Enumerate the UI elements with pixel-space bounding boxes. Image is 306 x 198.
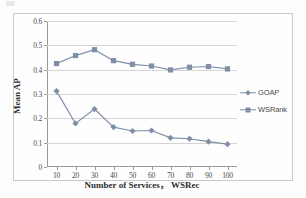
x-axis-title: Number of Services， WSRec bbox=[47, 178, 237, 191]
y-tick-mark bbox=[44, 167, 47, 168]
series-wsrank bbox=[54, 47, 230, 72]
data-point bbox=[225, 66, 230, 71]
data-point bbox=[53, 88, 59, 94]
data-point bbox=[73, 53, 78, 58]
data-point bbox=[148, 127, 154, 133]
data-point bbox=[224, 141, 230, 147]
x-tick-mark bbox=[133, 167, 134, 170]
data-point bbox=[167, 135, 173, 141]
x-tick-mark bbox=[76, 167, 77, 170]
plot-area: 0.60.50.40.30.20.10 10203040506070809010… bbox=[47, 21, 237, 167]
series-line bbox=[57, 50, 228, 70]
y-tick-label: 0.6 bbox=[33, 17, 42, 26]
x-tick-mark bbox=[171, 167, 172, 170]
data-point bbox=[168, 67, 173, 72]
data-point bbox=[187, 65, 192, 70]
x-tick-mark bbox=[152, 167, 153, 170]
series-layer bbox=[47, 21, 237, 167]
y-tick-label: 0.4 bbox=[33, 65, 42, 74]
data-point bbox=[149, 63, 154, 68]
y-tick-label: 0.3 bbox=[33, 90, 42, 99]
data-point bbox=[129, 128, 135, 134]
y-tick-label: 0.5 bbox=[33, 41, 42, 50]
legend-square-marker-icon bbox=[240, 105, 256, 115]
data-point bbox=[54, 61, 59, 66]
chart-legend: GOAPWSRank bbox=[240, 86, 298, 120]
data-point bbox=[111, 58, 116, 63]
x-tick-mark bbox=[95, 167, 96, 170]
x-tick-mark bbox=[190, 167, 191, 170]
series-line bbox=[57, 91, 228, 144]
y-tick-label: 0.2 bbox=[33, 114, 42, 123]
data-point bbox=[92, 47, 97, 52]
x-tick-mark bbox=[209, 167, 210, 170]
data-point bbox=[186, 136, 192, 142]
legend-diamond-marker-icon bbox=[240, 88, 256, 98]
y-tick-label: 0 bbox=[38, 163, 42, 172]
data-point bbox=[206, 64, 211, 69]
y-tick-label: 0.1 bbox=[33, 138, 42, 147]
legend-label: GOAP bbox=[258, 88, 279, 97]
legend-item-goap[interactable]: GOAP bbox=[240, 86, 298, 99]
legend-label: WSRank bbox=[258, 105, 287, 114]
chart-figure: 0.60.50.40.30.20.10 10203040506070809010… bbox=[0, 0, 306, 198]
y-axis-title: Mean AP bbox=[12, 78, 22, 114]
x-tick-mark bbox=[228, 167, 229, 170]
series-goap bbox=[53, 88, 230, 147]
data-point bbox=[130, 62, 135, 67]
scan-artifact bbox=[6, 1, 15, 6]
x-tick-mark bbox=[57, 167, 58, 170]
x-tick-mark bbox=[114, 167, 115, 170]
data-point bbox=[205, 139, 211, 145]
legend-item-wsrank[interactable]: WSRank bbox=[240, 103, 298, 116]
